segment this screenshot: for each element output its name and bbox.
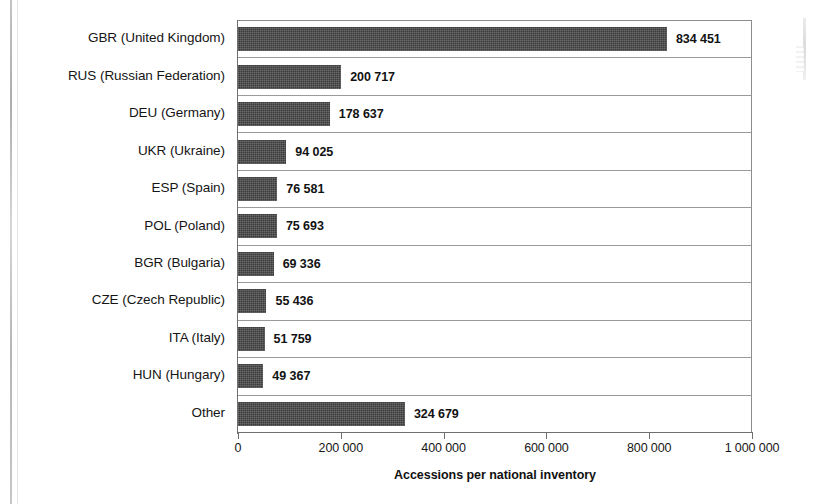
bar-row: 49 367 [238,358,751,395]
bar [238,252,274,276]
bar [238,289,266,313]
bar-row: 324 679 [238,396,751,433]
bar-value-label: 76 581 [286,182,324,196]
bar [238,102,330,126]
bar-value-label: 94 025 [295,145,333,159]
bar-value-label: 178 637 [339,107,384,121]
plot-area: 834 451200 717178 63794 02576 58175 6936… [238,20,752,432]
x-axis-tick-label: 800 000 [627,441,672,455]
x-axis-tick-label: 0 [235,441,242,455]
bar-row: 69 336 [238,246,751,283]
category-label-row: HUN (Hungary) [24,357,232,394]
category-label-row: UKR (Ukraine) [24,132,232,169]
bar-value-label: 69 336 [283,257,321,271]
bar [238,364,263,388]
bar-row: 55 436 [238,283,751,320]
bar-value-label: 55 436 [275,294,313,308]
value-axis: 0200 000400 000600 000800 0001 000 000 [238,432,752,466]
bar [238,65,341,89]
bar-value-label: 834 451 [676,32,721,46]
category-label: DEU (Germany) [129,106,225,121]
x-axis-tick [444,432,445,439]
bar-value-label: 51 759 [274,332,312,346]
x-axis-tick [649,432,650,439]
x-axis-tick [238,432,239,439]
bar-row: 51 759 [238,321,751,358]
category-label-row: GBR (United Kingdom) [24,20,232,57]
bar [238,327,265,351]
bar-row: 94 025 [238,133,751,170]
category-label: GBR (United Kingdom) [88,31,225,46]
x-axis-tick [752,432,753,439]
bar-row: 834 451 [238,21,751,58]
x-axis-tick-label: 200 000 [319,441,364,455]
bar-row: 75 693 [238,208,751,245]
x-axis-title: Accessions per national inventory [238,468,752,482]
bar [238,177,277,201]
bar [238,140,286,164]
category-label: ESP (Spain) [152,181,226,196]
category-label: BGR (Bulgaria) [134,256,225,271]
bar-row: 200 717 [238,58,751,95]
bar-chart-figure: GBR (United Kingdom)RUS (Russian Federat… [0,0,820,504]
x-axis-tick-label: 400 000 [421,441,466,455]
category-label: CZE (Czech Republic) [92,293,225,308]
bar [238,402,405,426]
category-label-row: DEU (Germany) [24,95,232,132]
x-axis-tick [341,432,342,439]
category-label-row: ITA (Italy) [24,320,232,357]
category-label-row: Other [24,395,232,432]
category-label-row: CZE (Czech Republic) [24,282,232,319]
x-axis-tick-label: 1 000 000 [725,441,780,455]
category-label-row: POL (Poland) [24,207,232,244]
bar-value-label: 200 717 [350,70,395,84]
category-label-row: RUS (Russian Federation) [24,57,232,94]
bar-value-label: 324 679 [414,407,459,421]
category-label: ITA (Italy) [169,331,225,346]
category-label: Other [191,406,225,421]
category-label-row: BGR (Bulgaria) [24,245,232,282]
category-label: UKR (Ukraine) [138,144,225,159]
category-label: RUS (Russian Federation) [68,69,225,84]
bar-value-label: 49 367 [272,369,310,383]
bar [238,27,667,51]
bar-row: 76 581 [238,171,751,208]
x-axis-tick-label: 600 000 [524,441,569,455]
category-label: POL (Poland) [144,219,225,234]
category-label: HUN (Hungary) [133,368,225,383]
x-axis-tick [546,432,547,439]
category-axis-labels: GBR (United Kingdom)RUS (Russian Federat… [24,20,232,432]
category-label-row: ESP (Spain) [24,170,232,207]
bar-value-label: 75 693 [286,219,324,233]
bar [238,214,277,238]
bar-row: 178 637 [238,96,751,133]
